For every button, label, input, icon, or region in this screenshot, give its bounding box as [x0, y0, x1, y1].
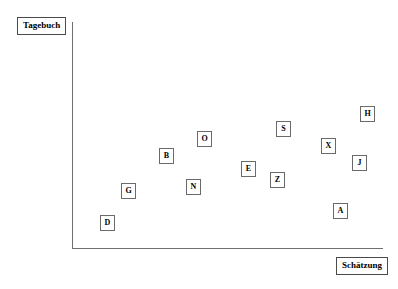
- data-point-z: Z: [270, 172, 285, 188]
- data-point-h: H: [360, 106, 375, 122]
- data-point-j: J: [352, 155, 367, 171]
- data-point-e: E: [241, 161, 256, 177]
- data-point-g: G: [121, 183, 136, 199]
- data-point-b: B: [159, 148, 174, 164]
- data-point-o: O: [197, 131, 212, 147]
- data-point-s: S: [276, 121, 291, 137]
- data-point-n: N: [186, 179, 201, 195]
- data-point-a: A: [333, 203, 348, 219]
- scatter-chart: Tagebuch Schätzung HSOXBJEZGNAD: [0, 0, 398, 289]
- data-point-x: X: [321, 138, 336, 154]
- data-point-d: D: [100, 215, 115, 231]
- plot-area: HSOXBJEZGNAD: [0, 0, 398, 289]
